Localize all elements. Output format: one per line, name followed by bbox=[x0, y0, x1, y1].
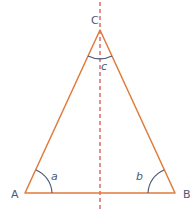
angle-label-c: c bbox=[101, 60, 107, 73]
angle-arc-a bbox=[36, 170, 52, 193]
angle-label-a: a bbox=[51, 170, 58, 183]
angle-label-b: b bbox=[136, 170, 143, 183]
vertex-label-c: C bbox=[91, 14, 99, 27]
angle-arc-b bbox=[148, 170, 164, 193]
vertex-label-a: A bbox=[11, 188, 19, 201]
vertex-label-b: B bbox=[183, 188, 191, 201]
triangle-diagram: C c A a b B bbox=[0, 0, 192, 222]
angle-arc-c bbox=[88, 56, 112, 59]
